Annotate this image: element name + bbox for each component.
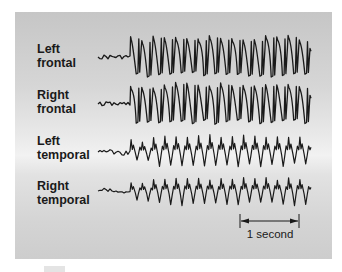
page-fragment (44, 266, 65, 272)
trace-right-temporal (98, 178, 311, 206)
trace-left-frontal (98, 35, 311, 77)
scale-bar-label: 1 second (240, 228, 300, 240)
figure: Left frontal Right frontal Left temporal… (0, 0, 342, 272)
trace-right-frontal (98, 82, 311, 124)
trace-left-temporal (98, 135, 311, 167)
arrow-right-icon (290, 219, 298, 224)
scale-bar (240, 214, 299, 228)
arrow-left-icon (241, 219, 249, 224)
